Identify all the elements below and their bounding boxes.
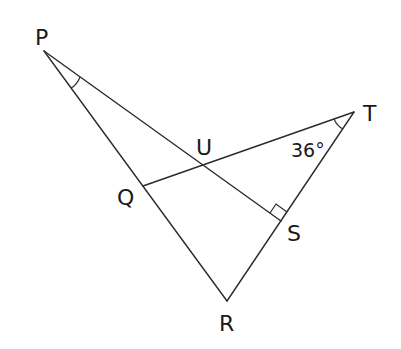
segment-PR [44, 51, 227, 301]
label-T: T [362, 101, 377, 126]
right-angle-mark-S [270, 204, 287, 213]
geometry-diagram: P Q R S T U 36° [0, 0, 401, 349]
label-R: R [219, 311, 234, 336]
angle-arc-P [71, 77, 80, 88]
segment-PS [44, 51, 281, 221]
angle-arc-T [334, 119, 343, 129]
label-P: P [35, 25, 48, 50]
label-U: U [196, 135, 212, 160]
label-Q: Q [117, 185, 134, 210]
angle-value-T: 36° [291, 139, 325, 161]
label-S: S [287, 221, 301, 246]
